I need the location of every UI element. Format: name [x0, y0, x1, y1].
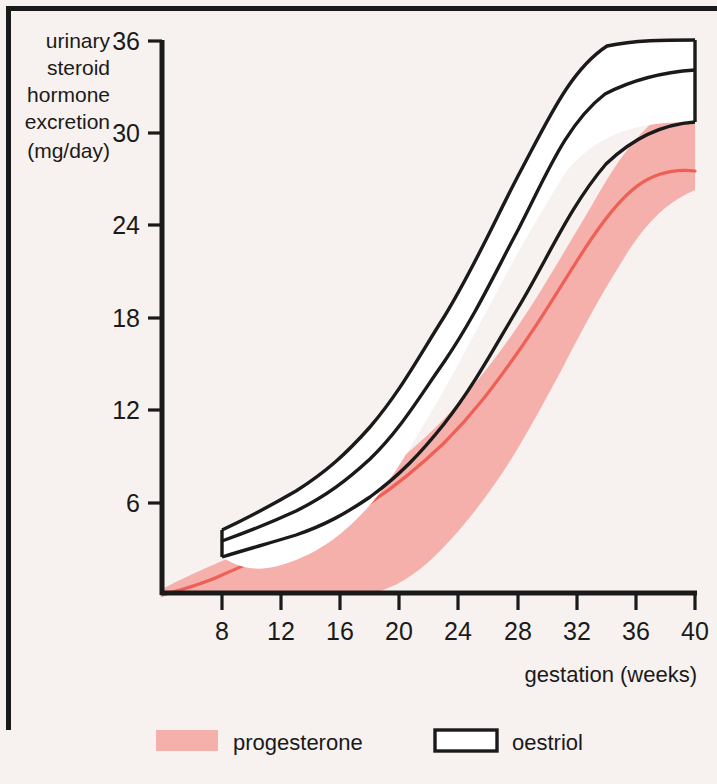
y-tick-label-6: 6	[126, 489, 140, 517]
oestriol-swatch	[435, 730, 497, 751]
x-tick-label-16: 16	[326, 617, 354, 645]
y-axis-title-line-4: (mg/day)	[27, 139, 110, 162]
legend-label-oestriol: oestriol	[512, 730, 583, 755]
x-tick-label-8: 8	[215, 617, 229, 645]
x-axis-title: gestation (weeks)	[525, 662, 697, 687]
y-tick-label-12: 12	[112, 396, 140, 424]
y-axis-title: urinary steroid hormone excretion (mg/da…	[25, 29, 111, 162]
y-tick-label-36: 36	[112, 27, 140, 55]
y-axis-title-line-0: urinary	[46, 29, 111, 52]
y-axis-tick-labels: 6 12 18 24 30 36	[112, 27, 140, 517]
legend: progesterone oestriol	[156, 730, 583, 755]
x-tick-label-40: 40	[681, 617, 709, 645]
progesterone-swatch	[156, 730, 218, 751]
x-tick-label-12: 12	[267, 617, 295, 645]
x-tick-label-32: 32	[563, 617, 591, 645]
y-axis-title-line-2: hormone	[27, 83, 110, 106]
legend-item-oestriol[interactable]: oestriol	[435, 730, 583, 755]
y-axis-title-line-1: steroid	[47, 56, 110, 79]
x-tick-label-20: 20	[385, 617, 413, 645]
y-tick-label-24: 24	[112, 211, 140, 239]
legend-item-progesterone[interactable]: progesterone	[156, 730, 363, 755]
figure-container: urinary steroid hormone excretion (mg/da…	[0, 0, 717, 784]
y-tick-label-18: 18	[112, 304, 140, 332]
y-tick-label-30: 30	[112, 119, 140, 147]
x-tick-label-24: 24	[444, 617, 472, 645]
x-tick-label-36: 36	[622, 617, 650, 645]
x-axis-tick-labels: 8 12 16 20 24 28 32 36 40	[215, 617, 709, 645]
x-axis-ticks	[222, 593, 695, 610]
legend-label-progesterone: progesterone	[233, 730, 363, 755]
chart-canvas: urinary steroid hormone excretion (mg/da…	[0, 0, 717, 784]
x-tick-label-28: 28	[504, 617, 532, 645]
y-axis-title-line-3: excretion	[25, 110, 110, 133]
